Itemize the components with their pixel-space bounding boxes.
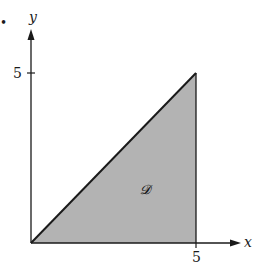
y-axis-label: y	[28, 9, 38, 25]
x-axis-label: x	[244, 234, 252, 250]
y-axis-arrow-icon	[28, 29, 35, 40]
x-tick-label: 5	[192, 249, 201, 265]
x-axis-arrow-icon	[230, 240, 241, 247]
region-diagram: • y 5 x 5 𝓓	[0, 0, 269, 279]
bullet-marker: •	[0, 16, 7, 30]
y-tick-label: 5	[13, 65, 22, 81]
